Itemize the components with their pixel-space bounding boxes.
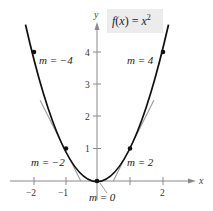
x-axis-arrow-icon — [188, 179, 196, 184]
parabola-chart: x y −2 −1 2 1 2 3 4 f(x) = — [0, 0, 213, 211]
y-tick-label-1: 1 — [85, 144, 90, 154]
point-0 — [95, 179, 100, 184]
y-tick-label-3: 3 — [85, 80, 90, 90]
y-tick-label-4: 4 — [85, 48, 90, 58]
point-1 — [128, 146, 133, 151]
slope-label-pos4: m = 4 — [127, 54, 154, 66]
x-tick-label-2: 2 — [160, 188, 165, 198]
slope-label-zero: m = 0 — [89, 191, 116, 203]
axes: x y — [10, 9, 204, 200]
y-tick-label-2: 2 — [85, 112, 90, 122]
slope-label-neg4: m = −4 — [39, 54, 73, 66]
y-axis-label: y — [93, 9, 99, 20]
point-neg2 — [32, 50, 37, 55]
equation-label: f(x) = x2 — [112, 13, 151, 28]
x-tick-label-neg1: −1 — [58, 188, 68, 198]
y-axis-arrow-icon — [95, 22, 100, 30]
x-tick-label-neg2: −2 — [26, 188, 36, 198]
slope-label-neg2: m = −2 — [31, 156, 65, 168]
x-axis-label: x — [198, 175, 204, 186]
point-neg1 — [64, 146, 69, 151]
point-2 — [161, 50, 166, 55]
slope-label-pos2: m = 2 — [127, 156, 154, 168]
